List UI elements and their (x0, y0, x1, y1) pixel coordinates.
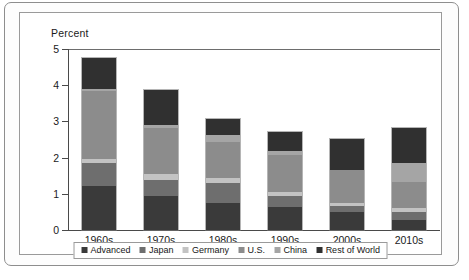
bar-1970s (144, 90, 178, 230)
bar-segment-advanced (206, 203, 240, 230)
y-tick (62, 85, 68, 86)
legend-label: U.S. (248, 245, 266, 255)
y-tick (62, 230, 68, 231)
bar-segment-japan (82, 163, 116, 186)
plot-area: 012345 1960s1970s1980s1990s2000s2010s (68, 49, 440, 230)
bar-segment-rest-of-world (330, 139, 364, 170)
legend-swatch-icon (316, 247, 322, 253)
bar-segment-advanced (330, 212, 364, 230)
bar-segment-rest-of-world (144, 90, 178, 125)
y-tick-label: 1 (53, 188, 59, 200)
legend-swatch-icon (238, 247, 244, 253)
y-tick (62, 49, 68, 50)
legend-label: Japan (149, 245, 174, 255)
y-axis-title: Percent (51, 27, 89, 39)
legend-label: China (284, 245, 308, 255)
bar-1990s (268, 132, 302, 230)
legend-label: Rest of World (326, 245, 380, 255)
bar-segment-advanced (392, 220, 426, 230)
bar-segment-u-s (144, 128, 178, 174)
legend-item-japan[interactable]: Japan (140, 245, 174, 255)
figure-inner-frame: Percent 012345 1960s1970s1980s1990s2000s… (19, 12, 442, 255)
y-tick (62, 158, 68, 159)
bar-2010s (392, 128, 426, 230)
chart-legend: AdvancedJapanGermanyU.S.ChinaRest of Wor… (73, 242, 388, 259)
y-tick (62, 194, 68, 195)
legend-item-china[interactable]: China (274, 245, 307, 255)
bar-segment-advanced (82, 186, 116, 230)
bar-segment-china (392, 163, 426, 181)
bar-2000s (330, 139, 364, 230)
bar-segment-japan (144, 180, 178, 196)
y-tick-label: 2 (53, 152, 59, 164)
bar-segment-rest-of-world (268, 132, 302, 152)
bar-segment-u-s (268, 155, 302, 191)
bar-segment-rest-of-world (392, 128, 426, 164)
bar-segment-advanced (144, 196, 178, 230)
legend-swatch-icon (140, 247, 146, 253)
bar-segment-rest-of-world (206, 119, 240, 136)
legend-item-germany[interactable]: Germany (183, 245, 230, 255)
bar-1980s (206, 119, 240, 230)
y-tick-label: 4 (53, 79, 59, 91)
bar-segment-u-s (330, 170, 364, 203)
bar-segment-u-s (392, 182, 426, 208)
bar-segment-advanced (268, 207, 302, 230)
bar-segment-china (206, 135, 240, 142)
y-tick-label: 5 (53, 43, 59, 55)
plot-top-rule (68, 49, 440, 50)
x-tick-label: 2010s (379, 234, 439, 246)
bar-segment-u-s (82, 91, 116, 159)
legend-label: Advanced (91, 245, 131, 255)
y-tick-label: 0 (53, 224, 59, 236)
y-tick (62, 121, 68, 122)
legend-item-u-s[interactable]: U.S. (238, 245, 265, 255)
legend-item-rest-of-world[interactable]: Rest of World (316, 245, 380, 255)
bar-segment-u-s (206, 142, 240, 178)
x-axis-line (62, 230, 440, 231)
figure-card: Percent 012345 1960s1970s1980s1990s2000s… (4, 2, 459, 266)
legend-swatch-icon (81, 247, 87, 253)
y-axis-line (68, 49, 69, 230)
bar-segment-japan (392, 212, 426, 220)
legend-item-advanced[interactable]: Advanced (81, 245, 131, 255)
bar-segment-japan (206, 183, 240, 203)
bar-segment-japan (268, 196, 302, 207)
legend-label: Germany (192, 245, 229, 255)
bar-segment-rest-of-world (82, 58, 116, 89)
y-tick-label: 3 (53, 115, 59, 127)
bar-1960s (82, 58, 116, 230)
legend-swatch-icon (274, 247, 280, 253)
legend-swatch-icon (183, 247, 189, 253)
